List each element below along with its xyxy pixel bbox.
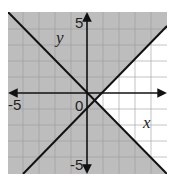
origin-label: 0 [75, 97, 83, 114]
x-axis-label: x [142, 113, 151, 132]
tick-label-x-neg: -5 [8, 96, 21, 113]
graph: -5 5 -5 0 y x [0, 0, 176, 182]
tick-label-y-pos: 5 [75, 14, 83, 31]
tick-label-y-neg: -5 [70, 156, 83, 173]
y-axis-label: y [54, 28, 64, 47]
